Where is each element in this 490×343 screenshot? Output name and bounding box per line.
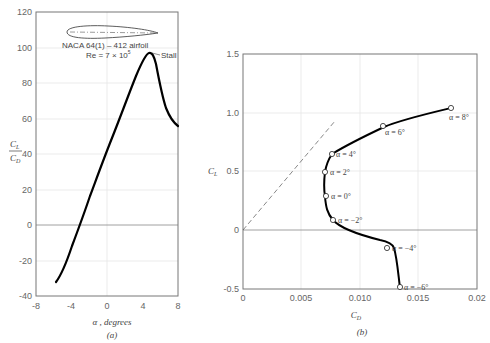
x-tick: 0.010 [349, 293, 372, 303]
x-tick: 0.005 [290, 293, 313, 303]
svg-text:CL: CL [10, 139, 20, 150]
panel-b-chart: 1.5 1.0 0.5 0 -0.5 0 0.005 0.010 0.015 0… [208, 49, 486, 337]
y-tick: -0.5 [223, 284, 239, 294]
panel-a-y-label: CL CD [9, 139, 22, 164]
airfoil-sketch-icon [67, 26, 158, 39]
x-tick: 0.02 [468, 293, 486, 303]
point-label: α = −4° [392, 244, 416, 253]
y-tick: 60 [22, 114, 32, 124]
x-tick: 8 [175, 301, 180, 311]
x-tick: -8 [32, 301, 40, 311]
point-label: α = 2° [330, 168, 350, 177]
panel-b-y-label: CL [208, 166, 218, 177]
y-tick: 0 [234, 225, 239, 235]
y-tick: 120 [17, 7, 32, 17]
stall-label: Stall [161, 51, 177, 60]
panel-b-y-ticks: 1.5 1.0 0.5 0 -0.5 [223, 49, 239, 294]
x-tick: 0 [104, 301, 109, 311]
point-alpha-8 [448, 105, 453, 110]
y-tick: 20 [22, 185, 32, 195]
y-tick: 0 [27, 220, 32, 230]
x-tick: -4 [67, 301, 75, 311]
point-alpha-m4 [384, 245, 389, 250]
panel-b-x-label: CD [351, 310, 362, 321]
point-alpha-2 [322, 169, 327, 174]
point-alpha-m6 [397, 284, 402, 289]
panel-b-x-ticks: 0 0.005 0.010 0.015 0.02 [240, 293, 485, 303]
point-label: α = −2° [338, 216, 362, 225]
x-tick: 0 [240, 293, 245, 303]
panel-b-grid [243, 54, 477, 289]
point-label: α = 4° [336, 150, 356, 159]
point-alpha-m2 [330, 217, 335, 222]
panel-a-x-label: α , degrees [92, 317, 132, 327]
panel-b-caption: (b) [357, 327, 368, 337]
y-tick: 80 [22, 78, 32, 88]
figure: 120 100 80 60 40 20 0 -20 -40 -8 -4 0 4 … [0, 0, 490, 343]
reynolds-label: Re = 7 × 105 [86, 49, 131, 60]
point-label: α = 0° [331, 192, 351, 201]
svg-text:CD: CD [10, 153, 21, 164]
point-alpha-0 [323, 193, 328, 198]
panel-a-chart: 120 100 80 60 40 20 0 -20 -40 -8 -4 0 4 … [9, 7, 181, 340]
y-tick: -40 [19, 291, 32, 301]
x-tick: 0.015 [407, 293, 430, 303]
panel-a-x-ticks: -8 -4 0 4 8 [32, 301, 181, 311]
airfoil-label: NACA 64(1) – 412 airfoil [62, 41, 148, 50]
tangent-line [243, 121, 335, 230]
panel-a-y-ticks: 120 100 80 60 40 20 0 -20 -40 [17, 7, 32, 301]
y-tick: 0.5 [226, 166, 239, 176]
panel-a-caption: (a) [107, 330, 118, 340]
x-tick: 4 [140, 301, 145, 311]
y-tick: 1.0 [226, 108, 239, 118]
point-label: α = 6° [385, 128, 405, 137]
y-tick: 100 [17, 43, 32, 53]
polar-point-labels: α = 8° α = 6° α = 4° α = 2° α = 0° α = −… [330, 113, 469, 292]
y-tick: -20 [19, 256, 32, 266]
y-tick: 40 [22, 149, 32, 159]
point-label: α = −6° [404, 283, 428, 292]
panel-a-curve [56, 53, 178, 282]
point-alpha-4 [329, 151, 334, 156]
point-label: α = 8° [449, 113, 469, 122]
y-tick: 1.5 [226, 49, 239, 59]
